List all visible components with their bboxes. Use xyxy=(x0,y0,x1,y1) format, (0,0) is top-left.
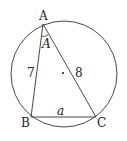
side-ac-label: 8 xyxy=(75,66,83,80)
center-point xyxy=(62,72,64,74)
triangle-circle-diagram: A B C A 7 8 a xyxy=(0,0,127,141)
side-bc-label: a xyxy=(57,104,64,118)
vertex-a-label: A xyxy=(38,9,48,23)
vertex-c-label: C xyxy=(97,116,106,130)
vertex-b-label: B xyxy=(21,116,30,130)
side-ab-label: 7 xyxy=(27,66,35,80)
angle-a-label: A xyxy=(41,37,51,51)
